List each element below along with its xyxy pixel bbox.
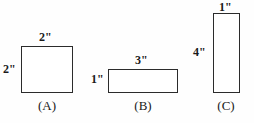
shape-a-top-dimension-label: 2" [39,31,52,43]
shape-b-caption: (B) [116,99,170,112]
shape-b-top-dimension-label: 3" [135,54,148,66]
shape-a-left-dimension-label: 2" [3,63,16,75]
shape-a-square [21,46,73,93]
geometry-figure: 2" 2" (A) 3" 1" (B) 1" 4" (C) [0,0,254,123]
shape-c-caption: (C) [199,99,253,112]
shape-c-top-dimension-label: 1" [219,1,232,13]
shape-a-caption: (A) [20,99,74,112]
shape-c-left-dimension-label: 4" [193,46,206,58]
shape-c-rectangle [213,13,240,93]
shape-b-left-dimension-label: 1" [91,73,104,85]
shape-b-rectangle [108,69,178,93]
